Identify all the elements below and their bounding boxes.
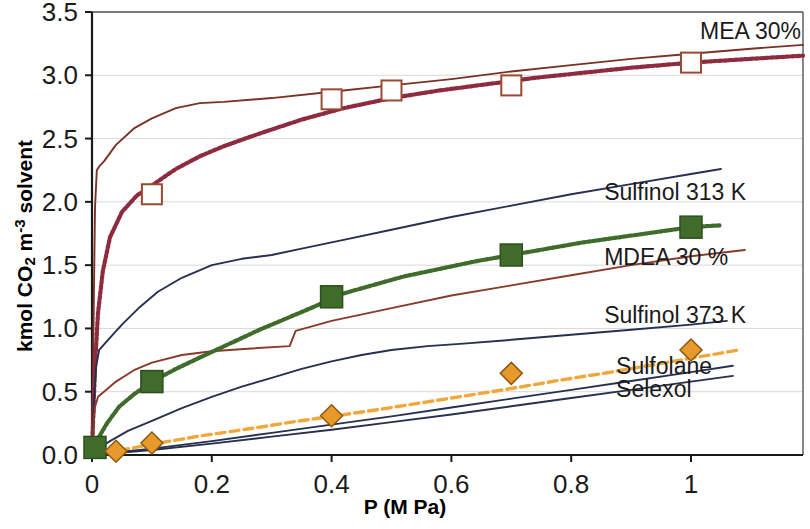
series-label-sulfinol-373-k: Sulfinol 373 K (604, 302, 746, 329)
x-axis-tick-label: 0.2 (194, 469, 230, 500)
x-axis-tick-label: 0 (85, 469, 99, 500)
x-axis-tick-label: 0.4 (314, 469, 350, 500)
marker-open-square (322, 89, 342, 109)
y-axis-tick-label-text: 1.0 (42, 313, 78, 344)
marker-filled-diamond (500, 362, 522, 384)
marker-open-square (381, 80, 401, 100)
marker-filled-square (84, 436, 106, 458)
y-axis-tick-label-text: 2.0 (42, 186, 78, 217)
x-axis-tick-label: 1 (684, 469, 698, 500)
y-axis-tick-label-text: 2.5 (42, 123, 78, 154)
y-axis-tick-label-text: 3.0 (42, 60, 78, 91)
marker-open-square (681, 53, 701, 73)
series-label-mdea-30: MDEA 30 % (604, 244, 728, 271)
x-axis-tick-label: 0.8 (553, 469, 589, 500)
marker-filled-square (141, 371, 163, 393)
series-label-sulfinol-313-k: Sulfinol 313 K (604, 179, 746, 206)
y-axis-tick-label-text: 0.5 (42, 376, 78, 407)
chart-figure: kmol CO2 m-3 solvent P (M Pa) 0.00.51.01… (0, 0, 810, 529)
x-axis-tick-label: 0.6 (433, 469, 469, 500)
marker-open-square (501, 75, 521, 95)
marker-filled-square (680, 216, 702, 238)
marker-filled-square (321, 286, 343, 308)
marker-filled-diamond (105, 440, 127, 462)
y-axis-tick-label-text: 3.5 (42, 0, 78, 28)
y-axis-tick-label-text: 0.0 (42, 440, 78, 471)
marker-open-square (142, 184, 162, 204)
marker-filled-square (500, 244, 522, 266)
series-label-selexol: Selexol (616, 376, 691, 403)
series-label-mea-30: MEA 30% (700, 18, 801, 45)
y-axis-tick-label-text: 1.5 (42, 250, 78, 281)
